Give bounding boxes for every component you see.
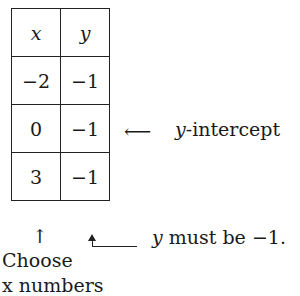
intercept-text: -intercept [186,118,280,140]
xy-value-table: x y −2 −1 0 −1 3 −1 [11,8,110,201]
hook-arrow-icon [92,236,137,247]
cell-y: −1 [61,57,110,105]
table-header-row: x y [12,9,110,57]
cell-x: −2 [12,57,61,105]
x-numbers-label: x numbers [2,274,104,296]
y-var: y [152,226,163,248]
y-intercept-label: y-intercept [175,118,280,140]
left-arrow-icon: ⟵ [124,120,151,142]
cell-y: −1 [61,105,110,153]
cell-x: 0 [12,105,61,153]
y-var: y [175,118,186,140]
table-row: 3 −1 [12,153,110,201]
header-y: y [61,9,110,57]
header-x: x [12,9,61,57]
y-note-text: must be −1. [163,226,286,248]
y-must-be-note: y must be −1. [152,226,286,248]
cell-x: 3 [12,153,61,201]
cell-y: −1 [61,153,110,201]
table-row: −2 −1 [12,57,110,105]
table-row: 0 −1 [12,105,110,153]
choose-label: Choose [2,249,73,271]
up-arrow-icon: ↑ [32,225,48,247]
